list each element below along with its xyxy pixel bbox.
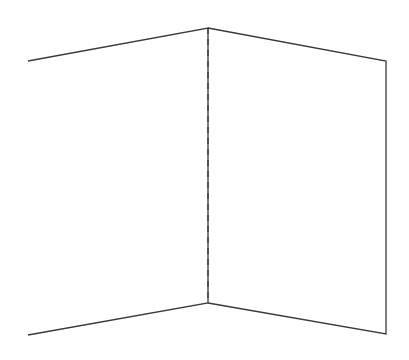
left-panel [28,28,208,335]
right-panel [208,28,386,334]
folded-card-diagram [0,0,409,360]
